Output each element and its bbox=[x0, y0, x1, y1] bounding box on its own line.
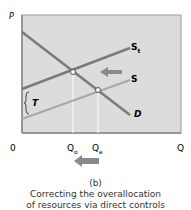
d-label: D bbox=[134, 109, 141, 119]
y-axis-label: P bbox=[9, 12, 14, 21]
origin-label: 0 bbox=[10, 143, 16, 153]
t-label: T bbox=[32, 98, 38, 108]
qe-label: Qe bbox=[92, 143, 103, 155]
qo-label: Qo bbox=[67, 143, 78, 155]
equilibrium-point bbox=[96, 88, 101, 93]
quantity-arrow-icon bbox=[74, 155, 99, 167]
optimal-point bbox=[71, 70, 76, 75]
x-axis-label: Q bbox=[177, 143, 184, 153]
plot-area bbox=[22, 15, 181, 133]
s-label: S bbox=[131, 74, 137, 84]
st-label: St bbox=[131, 42, 140, 54]
caption-line-2: of resources via direct controls bbox=[0, 199, 191, 210]
